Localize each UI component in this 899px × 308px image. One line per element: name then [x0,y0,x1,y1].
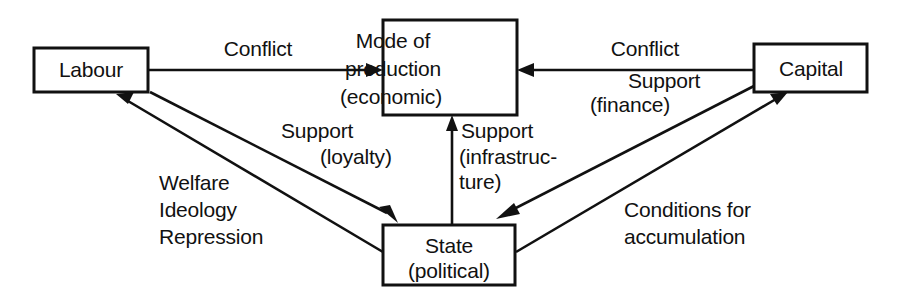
arrowhead-into-mode-bottom [446,115,458,131]
node-mode-of-production[interactable]: Mode of production (economic) [340,20,517,115]
edge-label-state-to-labour-welfare: Welfare [159,171,230,194]
edge-label-state-to-capital-conditions: Conditions for [624,198,751,221]
edge-label-state-to-mode-support: Support [461,119,534,142]
arrowhead-into-capital [770,92,788,105]
edge-label-capital-to-state-support: Support [628,69,701,92]
node-labour-label: Labour [59,58,123,81]
node-state-label-line2: (political) [408,259,490,282]
node-state[interactable]: State (political) [383,225,515,285]
edge-state-to-mode [446,115,458,225]
node-capital-label: Capital [779,57,843,80]
relations-diagram: Labour Mode of production (economic) Cap… [0,0,899,308]
edge-label-capital-to-mode-conflict: Conflict [611,37,680,60]
edge-label-state-to-labour-repression: Repression [159,225,263,248]
edge-label-state-to-labour-ideology: Ideology [159,198,237,221]
edge-label-capital-to-state-finance: (finance) [590,93,670,116]
edge-label-labour-to-state-loyalty: (loyalty) [320,145,392,168]
edge-label-labour-to-mode-conflict: Conflict [224,37,293,60]
arrowhead-into-mode-right [517,63,534,77]
edge-label-state-to-capital-accumulation: accumulation [624,225,745,248]
node-mode-of-production-label-line2: production [345,57,441,80]
node-labour[interactable]: Labour [34,48,148,92]
edge-label-labour-to-state-support: Support [281,119,354,142]
node-mode-of-production-label-line1: Mode of [356,29,431,52]
arrowhead-into-state-right [496,203,520,219]
diagram-canvas: Labour Mode of production (economic) Cap… [0,0,899,308]
arrowhead-into-state-left [379,205,398,223]
node-state-label-line1: State [425,234,473,257]
edge-label-state-to-mode-infrastructure: (infrastruc- [459,145,557,168]
node-mode-of-production-label-line3: (economic) [340,85,442,108]
edge-label-state-to-mode-ture: ture) [459,170,501,193]
node-capital[interactable]: Capital [754,44,867,92]
